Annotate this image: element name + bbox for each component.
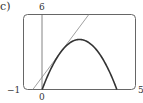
curve-parabola — [42, 40, 117, 90]
viewing-window-frame — [24, 15, 136, 90]
plot-area — [0, 0, 143, 103]
